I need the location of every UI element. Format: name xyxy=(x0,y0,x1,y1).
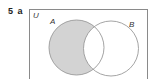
venn-diagram: U A B xyxy=(0,0,154,79)
label-b: B xyxy=(129,20,135,29)
label-a: A xyxy=(49,17,55,26)
label-u: U xyxy=(33,11,39,20)
